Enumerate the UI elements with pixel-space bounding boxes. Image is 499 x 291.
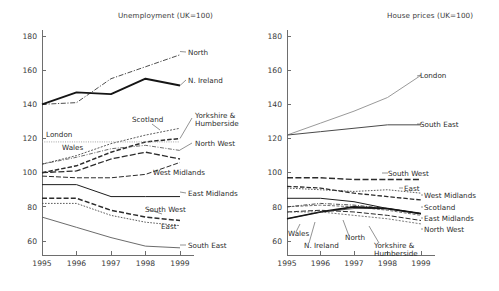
series-label-south-west: South West bbox=[145, 205, 186, 214]
y-axis-tick-label: 120 bbox=[23, 134, 38, 143]
x-axis-tick-label: 1999 bbox=[170, 259, 189, 268]
series-label-west-midlands: West Midlands bbox=[153, 168, 205, 177]
label-leader-line bbox=[180, 52, 186, 53]
y-axis-tick-label: 60 bbox=[27, 237, 37, 246]
series-label-london: London bbox=[46, 130, 72, 139]
x-axis-tick-label: 1996 bbox=[67, 259, 86, 268]
series-label-east-midlands: East Midlands bbox=[188, 189, 238, 198]
label-leader-line bbox=[180, 192, 186, 193]
y-axis-tick-label: 180 bbox=[268, 32, 283, 41]
x-axis-tick-label: 1997 bbox=[344, 259, 363, 268]
series-label-east-midlands: East Midlands bbox=[424, 214, 474, 223]
x-axis-tick-label: 1998 bbox=[136, 259, 155, 268]
plot-area-house-prices: 608010012014016018019951996199719981999L… bbox=[249, 0, 499, 291]
y-axis-tick-label: 180 bbox=[23, 32, 38, 41]
label-leader-line bbox=[180, 118, 192, 139]
chart-title-house-prices: House prices (UK=100) bbox=[387, 11, 473, 20]
y-axis-tick-label: 80 bbox=[27, 203, 37, 212]
series-line-n-ireland bbox=[42, 79, 180, 105]
series-label-north: North bbox=[345, 233, 365, 242]
chart-panel-unemployment: Unemployment (UK=100) 608010012014016018… bbox=[0, 0, 250, 291]
chart-panel-house-prices: House prices (UK=100) 608010012014016018… bbox=[249, 0, 499, 291]
series-label-east: East bbox=[161, 222, 177, 231]
x-axis-tick-label: 1996 bbox=[311, 259, 330, 268]
series-label-north-west: North West bbox=[424, 225, 464, 234]
x-axis-tick-label: 1995 bbox=[32, 259, 51, 268]
label-leader-line bbox=[180, 80, 186, 86]
series-line-south-east bbox=[287, 125, 421, 135]
series-line-yorkshire-humberside bbox=[287, 212, 421, 224]
series-label-scotland: Scotland bbox=[424, 203, 455, 212]
plot-area-unemployment: 608010012014016018019951996199719981999N… bbox=[0, 0, 250, 291]
series-label-n-ireland: N. Ireland bbox=[188, 76, 223, 85]
series-line-south-east bbox=[42, 217, 180, 248]
series-label-south-east: South East bbox=[420, 120, 459, 129]
series-label-london: London bbox=[420, 71, 446, 80]
y-axis-tick-label: 140 bbox=[268, 100, 283, 109]
series-label-south-east: South East bbox=[188, 241, 227, 250]
x-axis-tick-label: 1995 bbox=[277, 259, 296, 268]
series-label-east: East bbox=[404, 184, 420, 193]
y-axis-tick-label: 140 bbox=[23, 100, 38, 109]
label-leader-line bbox=[180, 143, 192, 150]
x-axis-tick-label: 1999 bbox=[411, 259, 430, 268]
x-axis-tick-label: 1998 bbox=[378, 259, 397, 268]
two-panel-line-chart-figure: Unemployment (UK=100) 608010012014016018… bbox=[0, 0, 499, 291]
y-axis-tick-label: 160 bbox=[23, 66, 38, 75]
series-label-south-west: South West bbox=[388, 169, 429, 178]
series-label-north: North bbox=[188, 48, 208, 57]
label-leader-line bbox=[309, 222, 315, 243]
series-label-humberside: Humberside bbox=[195, 119, 239, 128]
y-axis-tick-label: 60 bbox=[272, 237, 282, 246]
series-line-south-west bbox=[287, 178, 421, 180]
series-label-west-midlands: West Midlands bbox=[424, 191, 476, 200]
y-axis-tick-label: 160 bbox=[268, 66, 283, 75]
label-leader-line bbox=[152, 124, 160, 130]
chart-title-unemployment: Unemployment (UK=100) bbox=[118, 11, 213, 20]
series-line-london bbox=[287, 75, 421, 135]
y-axis-tick-label: 80 bbox=[272, 203, 282, 212]
series-line-east bbox=[287, 188, 421, 193]
series-label-wales: Wales bbox=[62, 143, 83, 152]
series-label-wales: Wales bbox=[288, 229, 309, 238]
y-axis-tick-label: 120 bbox=[268, 134, 283, 143]
series-label-north-west: North West bbox=[195, 139, 235, 148]
axis-spine bbox=[287, 30, 435, 255]
series-label-scotland: Scotland bbox=[132, 115, 163, 124]
series-line-east-midlands bbox=[42, 185, 180, 197]
x-axis-tick-label: 1997 bbox=[101, 259, 120, 268]
y-axis-tick-label: 100 bbox=[268, 168, 283, 177]
y-axis-tick-label: 100 bbox=[23, 168, 38, 177]
series-label-humberside: Humberside bbox=[374, 249, 418, 258]
